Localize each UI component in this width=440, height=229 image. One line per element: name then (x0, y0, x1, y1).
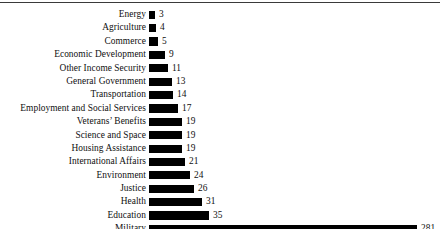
category-label: Justice (0, 183, 146, 195)
category-label: Energy (0, 9, 146, 21)
category-label: Agriculture (0, 22, 146, 34)
value-bar (149, 158, 185, 166)
value-label: 9 (169, 49, 174, 61)
value-label: 19 (186, 116, 195, 128)
bar-row: Health31 (0, 196, 440, 209)
value-bar (149, 11, 155, 19)
value-label: 19 (186, 130, 195, 142)
value-bar (149, 24, 156, 32)
value-label: 5 (162, 36, 167, 48)
bar-row: Economic Development9 (0, 49, 440, 62)
value-bar (149, 225, 417, 229)
value-bar (149, 211, 209, 219)
category-label: International Affairs (0, 156, 146, 168)
value-label: 31 (206, 196, 215, 208)
value-label: 3 (159, 9, 164, 21)
value-label: 4 (160, 22, 165, 34)
value-label: 24 (194, 170, 203, 182)
value-label: 19 (186, 143, 195, 155)
bar-row: Other Income Security11 (0, 63, 440, 76)
category-label: Veterans’ Benefits (0, 116, 146, 128)
category-label: General Government (0, 76, 146, 88)
category-label: Economic Development (0, 49, 146, 61)
category-label: Health (0, 196, 146, 208)
value-label: 13 (176, 76, 185, 88)
value-bar (149, 37, 158, 45)
value-bar (149, 131, 182, 139)
category-label: Environment (0, 170, 146, 182)
bar-row: Housing Assistance19 (0, 143, 440, 156)
value-label: 281 (421, 223, 435, 229)
bar-row: Transportation14 (0, 89, 440, 102)
bar-chart: Energy3Agriculture4Commerce5Economic Dev… (0, 0, 440, 229)
bar-row: Military281 (0, 223, 440, 229)
value-label: 26 (198, 183, 207, 195)
category-label: Housing Assistance (0, 143, 146, 155)
bar-row: Environment24 (0, 170, 440, 183)
bar-row: Education35 (0, 210, 440, 223)
bar-row: International Affairs21 (0, 156, 440, 169)
value-label: 17 (182, 103, 191, 115)
bar-row: Commerce5 (0, 36, 440, 49)
value-label: 11 (172, 63, 181, 75)
bar-row: Veterans’ Benefits19 (0, 116, 440, 129)
value-bar (149, 104, 178, 112)
category-label: Employment and Social Services (0, 103, 146, 115)
category-label: Education (0, 210, 146, 222)
value-bar (149, 185, 194, 193)
value-bar (149, 64, 168, 72)
value-bar (149, 198, 202, 206)
value-bar (149, 91, 173, 99)
category-label: Commerce (0, 36, 146, 48)
category-label: Transportation (0, 89, 146, 101)
bar-row: General Government13 (0, 76, 440, 89)
value-bar (149, 145, 182, 153)
top-divider-rule (0, 2, 440, 3)
bar-rows-container: Energy3Agriculture4Commerce5Economic Dev… (0, 9, 440, 229)
value-bar (149, 51, 165, 59)
value-bar (149, 78, 172, 86)
value-label: 21 (189, 156, 198, 168)
value-bar (149, 118, 182, 126)
value-label: 14 (177, 89, 186, 101)
bar-row: Employment and Social Services17 (0, 103, 440, 116)
category-label: Other Income Security (0, 63, 146, 75)
bar-row: Justice26 (0, 183, 440, 196)
bar-row: Science and Space19 (0, 130, 440, 143)
bar-row: Agriculture4 (0, 22, 440, 35)
bar-row: Energy3 (0, 9, 440, 22)
value-label: 35 (213, 210, 222, 222)
category-label: Science and Space (0, 130, 146, 142)
category-label: Military (0, 223, 146, 229)
value-bar (149, 171, 190, 179)
